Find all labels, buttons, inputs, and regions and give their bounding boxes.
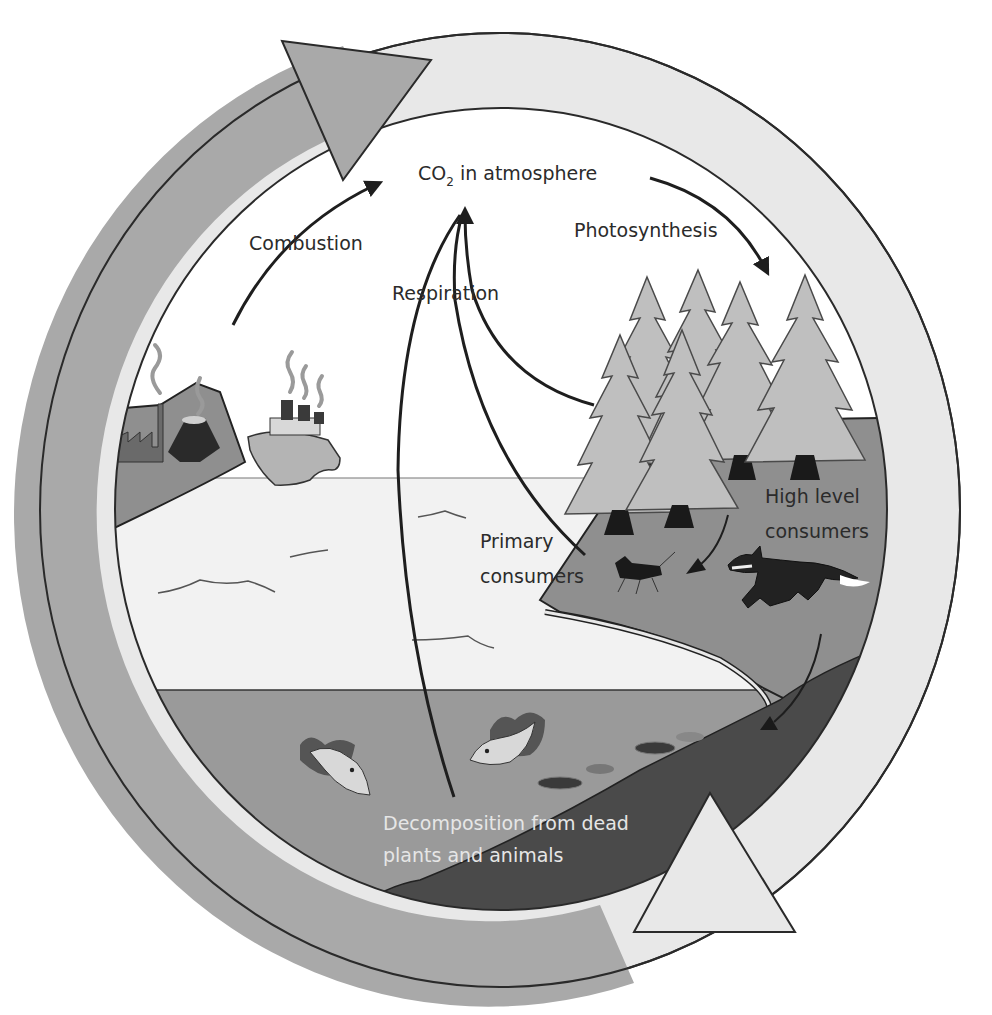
high-level-consumers-label-line2: consumers [765,520,869,542]
decomposition-label-line2: plants and animals [383,844,564,866]
decomposition-label-line1: Decomposition from dead [383,812,629,834]
combustion-label: Combustion [249,232,363,254]
high-level-consumers-label-line1: High level [765,485,860,507]
carbon-cycle-diagram: CO2 in atmosphere Combustion Photosynthe… [0,0,992,1015]
primary-consumers-label-line1: Primary [480,530,553,552]
photosynthesis-label: Photosynthesis [574,219,718,241]
primary-consumers-label-line2: consumers [480,565,584,587]
respiration-label: Respiration [392,282,499,304]
